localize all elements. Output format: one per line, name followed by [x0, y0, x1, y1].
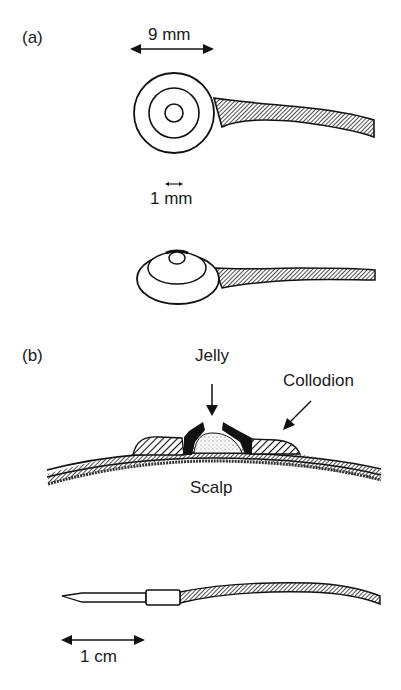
jelly-arrow: [206, 405, 218, 416]
needle-electrode: [61, 583, 380, 645]
scalp-label: Scalp: [190, 479, 233, 496]
jelly-label: Jelly: [195, 347, 229, 364]
dimension-label-1cm: 1 cm: [80, 648, 117, 665]
lead-wire-a2: [215, 268, 375, 288]
panel-label-b: (b): [22, 347, 43, 364]
needle-shaft: [62, 593, 146, 602]
collodion-left: [133, 437, 184, 455]
lead-wire-a: [214, 98, 374, 137]
needle-hub: [146, 590, 180, 605]
collodion-label: Collodion: [283, 372, 354, 389]
panel-label-a: (a): [22, 29, 43, 46]
dimension-label-9mm: 9 mm: [148, 26, 191, 43]
dimension-label-1mm: 1 mm: [150, 190, 193, 207]
electrode-hole: [165, 104, 183, 122]
collodion-right: [250, 439, 300, 454]
electrode-oblique-view: [137, 251, 375, 304]
electrode-top-view: [130, 44, 374, 186]
lead-wire-b: [180, 583, 380, 604]
electrode-cross-section: [47, 384, 381, 484]
electrode-diagram: [0, 0, 401, 690]
